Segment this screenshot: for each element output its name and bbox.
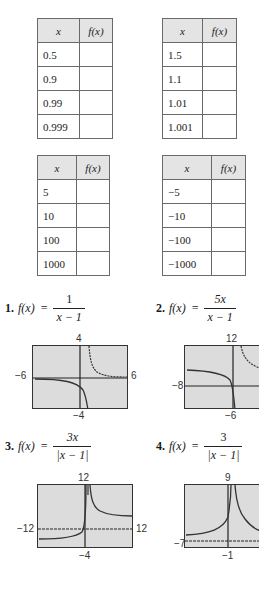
- problem-number: 4.: [156, 439, 165, 454]
- cell-x: −1000: [163, 252, 212, 276]
- cell-fx[interactable]: [203, 91, 237, 115]
- cell-fx[interactable]: [80, 91, 113, 115]
- cell-x: −5: [163, 180, 212, 204]
- header-x: x: [38, 156, 77, 180]
- header-x: x: [38, 19, 80, 43]
- graph-3-xmin-label: −12: [17, 523, 34, 534]
- fraction: 1 x − 1: [53, 292, 84, 325]
- cell-fx[interactable]: [203, 115, 237, 139]
- cell-fx[interactable]: [77, 228, 110, 252]
- graph-2-ymin-label: −6: [225, 410, 236, 421]
- header-fx: f(x): [212, 156, 246, 180]
- graph-4-calculator-screen: [184, 484, 259, 548]
- cell-x: 0.99: [38, 91, 80, 115]
- graph-1-calculator-screen: [32, 345, 128, 409]
- numerator: 1: [63, 292, 75, 308]
- table-header-row: x f(x): [163, 19, 237, 43]
- table-row: 10: [38, 204, 110, 228]
- function-name: f(x): [18, 439, 35, 454]
- denominator: |x − 1|: [204, 446, 242, 463]
- cell-fx[interactable]: [212, 204, 246, 228]
- header-fx: f(x): [203, 19, 237, 43]
- table-x-positive-large: x f(x) 5 10 100 1000: [37, 155, 110, 276]
- table-x-approach-1-from-left: x f(x) 0.5 0.9 0.99 0.999: [37, 18, 113, 139]
- cell-x: −10: [163, 204, 212, 228]
- fraction: 3x |x − 1|: [53, 430, 91, 463]
- graph-4-ymax-label: 9: [225, 472, 231, 483]
- cell-fx[interactable]: [80, 115, 113, 139]
- table-header-row: x f(x): [38, 19, 113, 43]
- numerator: 3x: [64, 430, 81, 446]
- table-row: 0.5: [38, 43, 113, 67]
- problem-1-formula: 1. f(x) = 1 x − 1: [5, 292, 85, 325]
- cell-fx[interactable]: [212, 252, 246, 276]
- problem-4-formula: 4. f(x) = 3 |x − 1|: [156, 430, 242, 463]
- table-row: 1.01: [163, 91, 237, 115]
- fraction: 3 |x − 1|: [204, 430, 242, 463]
- graph-1-ymax-label: 4: [76, 333, 82, 344]
- table-row: 1.001: [163, 115, 237, 139]
- graph-1-plot: [33, 346, 128, 409]
- graph-3-calculator-screen: [37, 484, 133, 548]
- cell-fx[interactable]: [203, 67, 237, 91]
- equals-sign: =: [41, 301, 48, 316]
- table-x-negative-large: x f(x) −5 −10 −100 −1000: [162, 155, 246, 276]
- graph-4-ymin-label: −1: [222, 550, 233, 561]
- header-fx: f(x): [80, 19, 113, 43]
- cell-x: 1.01: [163, 91, 203, 115]
- graph-3-xmax-label: 12: [136, 523, 147, 534]
- equals-sign: =: [192, 301, 199, 316]
- cell-x: −100: [163, 228, 212, 252]
- table-header-row: x f(x): [163, 156, 246, 180]
- cell-fx[interactable]: [80, 67, 113, 91]
- cell-fx[interactable]: [212, 228, 246, 252]
- problem-2-formula: 2. f(x) = 5x x − 1: [156, 292, 236, 325]
- problem-number: 1.: [5, 301, 14, 316]
- cell-x: 5: [38, 180, 77, 204]
- table-row: 1.5: [163, 43, 237, 67]
- table-row: 100: [38, 228, 110, 252]
- graph-1-xmax-label: 6: [131, 370, 137, 381]
- denominator: x − 1: [53, 308, 84, 325]
- cell-x: 10: [38, 204, 77, 228]
- function-name: f(x): [169, 439, 186, 454]
- graph-3-plot: [38, 485, 133, 548]
- header-fx: f(x): [77, 156, 110, 180]
- table-row: 5: [38, 180, 110, 204]
- cell-fx[interactable]: [212, 180, 246, 204]
- graph-3-ymin-label: −4: [79, 550, 90, 561]
- header-x: x: [163, 19, 203, 43]
- cell-x: 1.5: [163, 43, 203, 67]
- cell-x: 0.9: [38, 67, 80, 91]
- table-row: 0.999: [38, 115, 113, 139]
- numerator: 3: [217, 430, 229, 446]
- table-x-approach-1-from-right: x f(x) 1.5 1.1 1.01 1.001: [162, 18, 237, 139]
- graph-2-plot: [185, 346, 259, 409]
- problem-number: 3.: [5, 439, 14, 454]
- cell-fx[interactable]: [203, 43, 237, 67]
- header-x: x: [163, 156, 212, 180]
- denominator: |x − 1|: [53, 446, 91, 463]
- cell-fx[interactable]: [77, 180, 110, 204]
- cell-x: 1000: [38, 252, 77, 276]
- graph-3-ymax-label: 12: [78, 472, 89, 483]
- table-row: 1.1: [163, 67, 237, 91]
- table-header-row: x f(x): [38, 156, 110, 180]
- problem-number: 2.: [156, 301, 165, 316]
- table-row: 0.9: [38, 67, 113, 91]
- cell-x: 1.1: [163, 67, 203, 91]
- problem-3-formula: 3. f(x) = 3x |x − 1|: [5, 430, 91, 463]
- cell-fx[interactable]: [77, 204, 110, 228]
- equals-sign: =: [192, 439, 199, 454]
- function-name: f(x): [18, 301, 35, 316]
- table-row: −5: [163, 180, 246, 204]
- graph-1-xmin-label: −6: [15, 370, 26, 381]
- graph-2-ymax-label: 12: [226, 333, 237, 344]
- graph-1-ymin-label: −4: [73, 410, 84, 421]
- cell-fx[interactable]: [77, 252, 110, 276]
- graph-2-calculator-screen: [184, 345, 259, 409]
- denominator: x − 1: [204, 308, 235, 325]
- cell-fx[interactable]: [80, 43, 113, 67]
- cell-x: 1.001: [163, 115, 203, 139]
- table-row: 1000: [38, 252, 110, 276]
